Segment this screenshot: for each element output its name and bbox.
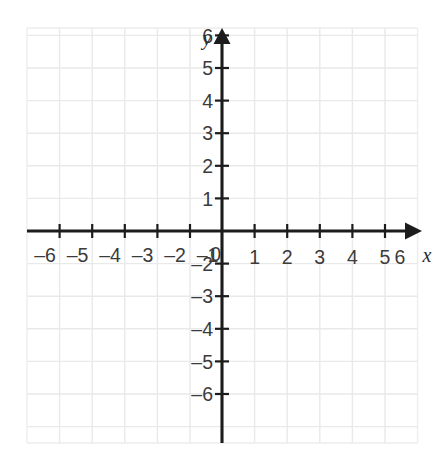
y-tick-label: –2 — [191, 253, 213, 275]
y-tick-label: 2 — [202, 155, 213, 177]
x-tick-label: –2 — [164, 244, 186, 266]
x-tick-label: 6 — [395, 246, 406, 268]
x-tick-label: –5 — [67, 244, 89, 266]
x-tick-label: 4 — [347, 246, 358, 268]
x-tick-label: 2 — [282, 246, 293, 268]
y-tick-label: 5 — [202, 57, 213, 79]
y-tick-label: –3 — [191, 285, 213, 307]
coordinate-grid-svg: –6 –5 –4 –3 –2 –1 1 2 3 4 5 6 0 6 5 4 3 … — [0, 0, 441, 463]
y-axis-label: y — [201, 27, 212, 50]
x-tick-label: –6 — [34, 244, 56, 266]
y-tick-label: 1 — [202, 188, 213, 210]
y-tick-label: –5 — [191, 351, 213, 373]
y-tick-label: –6 — [191, 383, 213, 405]
y-tick-label: 3 — [202, 122, 213, 144]
y-tick-label: 4 — [202, 90, 213, 112]
x-tick-label: –4 — [99, 244, 121, 266]
x-tick-label: –3 — [132, 244, 154, 266]
y-tick-label: –4 — [191, 318, 213, 340]
x-axis-label: x — [422, 244, 432, 266]
x-tick-label: 3 — [314, 246, 325, 268]
coordinate-plane-figure: –6 –5 –4 –3 –2 –1 1 2 3 4 5 6 0 6 5 4 3 … — [0, 0, 441, 463]
x-tick-label: 5 — [380, 246, 391, 268]
x-tick-label: 1 — [249, 246, 260, 268]
